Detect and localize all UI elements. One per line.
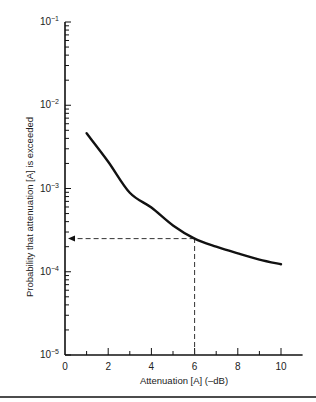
y-axis-label: Probability that attenuation [A] is exce… <box>24 117 35 297</box>
y-tick-label: 10−1 <box>40 15 59 27</box>
axis-ticks <box>65 22 281 355</box>
x-tick-label: 0 <box>62 361 68 372</box>
x-tick-label: 8 <box>235 361 241 372</box>
x-tick-label: 10 <box>275 361 287 372</box>
x-tick-label: 4 <box>149 361 155 372</box>
y-tick-label: 10−5 <box>40 348 59 360</box>
y-tick-label: 10−2 <box>40 98 59 110</box>
x-axis-label: Attenuation [A] (–dB) <box>140 375 228 386</box>
y-tick-label: 10−3 <box>40 182 59 194</box>
axes <box>65 22 303 355</box>
tick-labels: 10−510−410−310−210−10246810 <box>40 15 287 372</box>
x-tick-label: 2 <box>105 361 111 372</box>
x-tick-label: 6 <box>192 361 198 372</box>
dashed-guide-annotation <box>68 236 195 355</box>
data-curve <box>87 133 281 264</box>
y-tick-label: 10−4 <box>40 265 59 277</box>
arrowhead-icon <box>68 236 75 242</box>
chart: 10−510−410−310−210−10246810 Attenuation … <box>0 0 316 402</box>
